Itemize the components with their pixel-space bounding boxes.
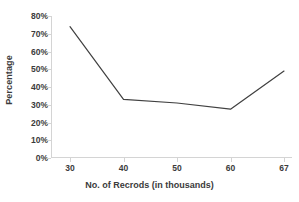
x-axis-tick-mark <box>177 158 178 162</box>
x-axis-tick-label: 40 <box>104 163 144 173</box>
y-axis-title-text: Percentage <box>4 55 14 105</box>
y-axis-tick-mark <box>47 123 51 124</box>
x-axis-tick-mark <box>231 158 232 162</box>
y-axis-tick-label: 0% <box>16 153 48 163</box>
x-axis-tick-label: 67 <box>264 163 299 173</box>
y-axis-tick-label: 40% <box>16 82 48 92</box>
y-axis-tick-label: 20% <box>16 118 48 128</box>
data-series-line <box>51 16 292 158</box>
x-axis-tick-label: 60 <box>211 163 251 173</box>
y-axis-tick-mark <box>47 158 51 159</box>
x-axis-tick-label: 50 <box>157 163 197 173</box>
y-axis-tick-label: 10% <box>16 135 48 145</box>
y-axis-tick-mark <box>47 52 51 53</box>
y-axis-tick-labels: 80%70%60%50%40%30%20%10%0% <box>16 11 48 163</box>
x-axis-tick-mark <box>124 158 125 162</box>
y-axis-tick-label: 30% <box>16 100 48 110</box>
y-axis-tick-label: 50% <box>16 64 48 74</box>
x-axis-tick-mark <box>70 158 71 162</box>
y-axis-tick-label: 70% <box>16 29 48 39</box>
y-axis-tick-mark <box>47 87 51 88</box>
x-axis-tick-labels: 3040506067 <box>51 163 292 177</box>
x-axis-title: No. of Recrods (in thousands) <box>0 180 299 190</box>
x-axis-tick-mark <box>284 158 285 162</box>
x-axis-tick-label: 30 <box>50 163 90 173</box>
x-axis-title-text: No. of Recrods (in thousands) <box>85 180 214 190</box>
y-axis-tick-mark <box>47 69 51 70</box>
y-axis-tick-mark <box>47 16 51 17</box>
y-axis-tick-mark <box>47 105 51 106</box>
series-polyline <box>70 27 284 110</box>
y-axis-tick-mark <box>47 34 51 35</box>
line-chart: Percentage 80%70%60%50%40%30%20%10%0% 30… <box>0 0 299 202</box>
y-axis-tick-mark <box>47 140 51 141</box>
y-axis-tick-label: 60% <box>16 47 48 57</box>
plot-area <box>51 16 292 158</box>
y-axis-tick-label: 80% <box>16 11 48 21</box>
